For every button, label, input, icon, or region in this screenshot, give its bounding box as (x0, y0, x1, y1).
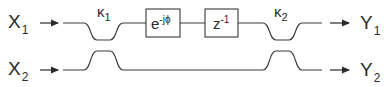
delay-label: z-1 (213, 16, 229, 31)
phase-shift-label-superscript: -jϕ (159, 14, 170, 25)
diagram-canvas (0, 0, 386, 87)
input-label-x1-subscript: 1 (22, 23, 29, 37)
input-label-x1-base: X (8, 11, 21, 32)
coupler-label-k1-base: κ (97, 3, 105, 20)
delay-label-base: z (213, 15, 221, 32)
phase-shift-label: e-jϕ (151, 16, 171, 31)
output-label-y1-base: Y (360, 12, 373, 33)
coupler-label-k2-subscript: 2 (282, 11, 288, 23)
output-label-y2-subscript: 2 (374, 71, 381, 85)
input-label-x1: X1 (8, 12, 28, 31)
coupler-label-k2-base: κ (274, 3, 282, 20)
input-label-x2-subscript: 2 (22, 70, 29, 84)
output-label-y1: Y1 (360, 13, 380, 32)
coupler-label-k1: κ1 (97, 4, 111, 19)
coupler-label-k2: κ2 (274, 4, 288, 19)
output-label-y1-subscript: 1 (374, 24, 381, 38)
top-waveguide (63, 23, 322, 40)
input-label-x2: X2 (8, 59, 28, 78)
coupler-label-k1-subscript: 1 (105, 11, 111, 23)
delay-label-superscript: -1 (221, 14, 230, 25)
output-label-y2-base: Y (360, 59, 373, 80)
input-label-x2-base: X (8, 58, 21, 79)
bottom-waveguide (63, 51, 322, 70)
output-label-y2: Y2 (360, 60, 380, 79)
